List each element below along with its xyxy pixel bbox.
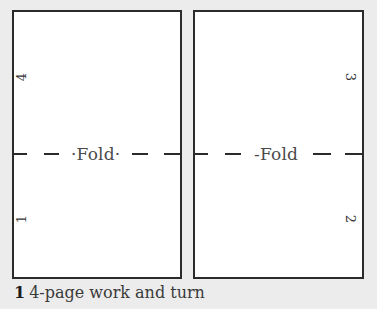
- fold-dash: [225, 153, 241, 155]
- fold-line-right: -Fold: [195, 142, 362, 166]
- fold-dash: [44, 153, 59, 155]
- page-number-3: 3: [343, 70, 357, 84]
- fold-label-right: -Fold: [254, 142, 298, 166]
- page-number-4: 4: [15, 70, 29, 84]
- fold-line-left: ·Fold·: [14, 142, 180, 166]
- caption-text: 4-page work and turn: [29, 283, 205, 302]
- figure-caption: 14-page work and turn: [14, 283, 205, 303]
- fold-dash: [345, 153, 362, 155]
- page-number-2: 2: [343, 212, 357, 226]
- sheet-panel-left: 4 ·Fold· 1: [12, 10, 182, 279]
- fold-dash: [195, 153, 208, 155]
- fold-dash: [313, 153, 331, 155]
- fold-dash: [14, 153, 27, 155]
- fold-dash: [132, 153, 148, 155]
- sheet-panel-right: 3 -Fold 2: [193, 10, 364, 279]
- fold-label-left: ·Fold·: [71, 142, 120, 166]
- fold-dash: [164, 153, 180, 155]
- page-number-1: 1: [15, 212, 29, 226]
- figure-number: 1: [14, 283, 25, 302]
